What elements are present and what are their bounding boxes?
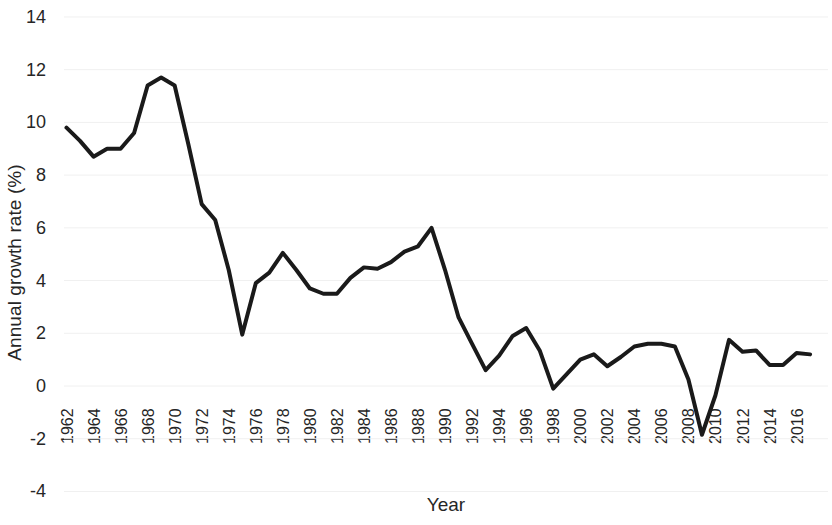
- gridlines: [64, 17, 828, 491]
- data-series-line: [67, 78, 811, 435]
- plot-area: [0, 0, 832, 525]
- chart-container: Annual growth rate (%) Year 14121086420-…: [0, 0, 832, 525]
